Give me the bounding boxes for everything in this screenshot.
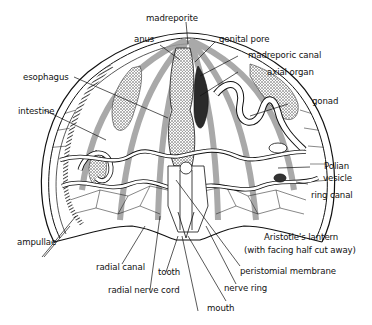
label-peristomial-membrane: peristomial membrane [240, 266, 336, 276]
label-gonad: gonad [312, 96, 338, 106]
label-ring-canal: ring canal [311, 190, 353, 200]
aristotles-lantern-shape [168, 162, 208, 238]
label-radial-nerve-cord: radial nerve cord [108, 285, 180, 295]
label-axial-organ: axial organ [267, 67, 314, 77]
label-madreporite: madreporite [146, 13, 198, 23]
label-anus: anus [134, 34, 154, 44]
label-mouth: mouth [207, 303, 234, 313]
label-nerve-ring: nerve ring [224, 283, 267, 293]
ampullae-band [65, 66, 112, 224]
label-ampullae: ampullae [17, 237, 56, 247]
anatomy-drawing [0, 0, 372, 325]
label-tooth: tooth [158, 267, 180, 277]
polian-vesicles [269, 143, 287, 182]
label-genital-pore: genital pore [219, 34, 269, 44]
label-intestine: intestine [18, 106, 55, 116]
sea-urchin-diagram: madreporite anus genital pore madreporic… [0, 0, 372, 325]
label-polian-vesicle-line2: vesicle [323, 173, 352, 183]
label-aristotles-lantern-line1: Aristotle's lantern [264, 232, 338, 242]
esophagus-organ [168, 48, 194, 166]
label-madreporic-canal: madreporic canal [248, 50, 321, 60]
label-radial-canal: radial canal [96, 262, 145, 272]
label-esophagus: esophagus [23, 72, 69, 82]
label-aristotles-lantern-line2: (with facing half cut away) [244, 245, 356, 255]
label-polian-vesicle-line1: Polian [324, 161, 349, 171]
